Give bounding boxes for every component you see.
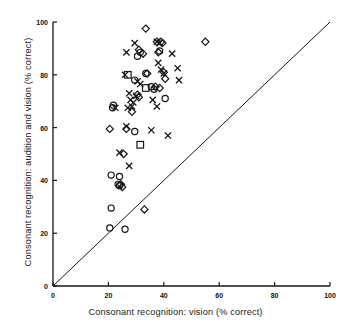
x-tick-label: 20 [104,292,112,299]
marker-cross [148,127,154,133]
marker-circle [122,226,128,232]
y-tick-label: 100 [36,19,48,26]
marker-diamond [202,38,209,45]
y-tick-label: 0 [44,283,48,290]
marker-cross [123,123,129,129]
scatter-plot-canvas [0,0,351,329]
x-tick-label: 40 [160,292,168,299]
marker-circle [116,173,122,179]
x-tick-label: 60 [215,292,223,299]
y-tick-label: 80 [40,71,48,78]
marker-cross [126,90,132,96]
marker-cross [165,132,171,138]
marker-circle [107,225,113,231]
y-tick-label: 60 [40,124,48,131]
data-markers [106,25,209,232]
marker-square [137,141,144,148]
marker-cross [176,77,182,83]
marker-cross [155,60,161,66]
marker-cross [123,49,129,55]
marker-diamond [155,49,162,56]
marker-circle [108,172,114,178]
marker-cross [154,103,160,109]
marker-circle [162,95,168,101]
marker-diamond [162,75,169,82]
marker-cross [169,51,175,57]
y-axis-label-wrap: Consonant recognition: audition and visi… [23,12,37,292]
figure-root: 020406080100020406080100 Consonant recog… [0,0,351,329]
marker-circle [108,205,114,211]
marker-diamond [106,125,113,132]
x-tick-label: 100 [324,292,336,299]
x-tick-label: 80 [271,292,279,299]
marker-cross [132,40,138,46]
marker-diamond [141,206,148,213]
marker-cross [175,65,181,71]
identity-line [53,22,330,286]
marker-circle [132,128,138,134]
marker-cross [150,97,156,103]
y-axis-label: Consonant recognition: audition and visi… [23,12,33,292]
marker-diamond [142,25,149,32]
y-tick-label: 20 [40,230,48,237]
x-tick-label: 0 [51,292,55,299]
marker-cross [126,163,132,169]
y-tick-label: 40 [40,177,48,184]
x-axis-label: Consonant recognition: vision (% correct… [0,307,351,317]
